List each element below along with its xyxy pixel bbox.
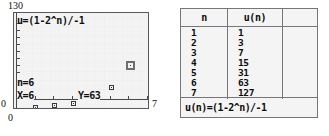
table-header-n: n — [181, 12, 227, 23]
table-row[interactable]: 11 — [181, 28, 317, 38]
trace-x-readout: X=6 — [17, 90, 34, 101]
trace-n-readout: n=6 — [17, 77, 34, 88]
table-header-row: n u(n) — [181, 9, 317, 27]
x-axis-tick — [72, 96, 73, 100]
plot-point — [109, 85, 114, 90]
x-axis-max-label: 7 — [152, 99, 157, 109]
plot-point-cursor — [126, 61, 135, 70]
graph-formula-label: u=(1-2^n)/-1 — [17, 15, 84, 26]
plot-point — [148, 21, 150, 26]
x-axis-tick — [147, 96, 148, 100]
table-body: 1123374155316637127 — [181, 28, 317, 98]
y-axis-tick — [16, 51, 20, 52]
table-row[interactable]: 531 — [181, 68, 317, 78]
trace-y-readout: Y=63 — [78, 90, 100, 101]
y-axis-tick — [16, 37, 20, 38]
x-axis-tick — [35, 96, 36, 100]
table-formula-label: u(n)=(1-2^n)/-1 — [185, 102, 266, 113]
y-axis-tick — [16, 72, 20, 73]
plot-point — [33, 105, 38, 109]
table-row[interactable]: 23 — [181, 38, 317, 48]
x-axis-tick — [53, 96, 54, 100]
table-row[interactable]: 415 — [181, 58, 317, 68]
x-axis-min-label: 0 — [8, 113, 13, 123]
sequence-graph-panel: 130 0 0 7 u=(1-2^n)/-1 n=6 X=6 Y=63 — [0, 0, 165, 136]
value-table-panel: n u(n) 1123374155316637127 u(n)=(1-2^n)/… — [180, 8, 318, 118]
y-axis-tick — [16, 58, 20, 59]
plot-point — [52, 103, 57, 108]
y-axis-tick — [16, 65, 20, 66]
graph-screen[interactable]: u=(1-2^n)/-1 n=6 X=6 Y=63 — [13, 12, 149, 109]
x-axis-tick — [128, 96, 129, 100]
plot-point — [71, 101, 76, 106]
table-row[interactable]: 37 — [181, 48, 317, 58]
table-formula-bar[interactable]: u(n)=(1-2^n)/-1 — [181, 97, 317, 117]
y-axis-min-label: 0 — [1, 99, 6, 109]
y-axis-max-label: 130 — [8, 1, 23, 11]
y-axis-tick — [16, 30, 20, 31]
table-header-un: u(n) — [228, 12, 282, 23]
x-axis-tick — [110, 96, 111, 100]
value-table[interactable]: n u(n) 1123374155316637127 u(n)=(1-2^n)/… — [180, 8, 318, 118]
y-axis-tick — [16, 44, 20, 45]
